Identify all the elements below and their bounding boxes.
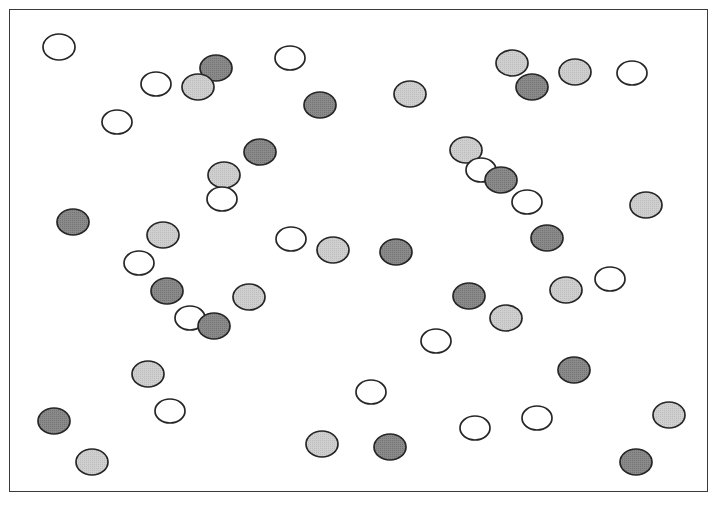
scatter-point-light-gray[interactable] bbox=[306, 431, 338, 457]
scatter-point-dark-gray[interactable] bbox=[151, 278, 183, 304]
scatter-point-white[interactable] bbox=[124, 251, 154, 275]
scatter-point-dark-gray[interactable] bbox=[620, 449, 652, 475]
scatter-point-light-gray[interactable] bbox=[147, 222, 179, 248]
scatter-point-light-gray[interactable] bbox=[76, 449, 108, 475]
plot-border bbox=[9, 9, 708, 492]
scatter-point-light-gray[interactable] bbox=[233, 284, 265, 310]
scatter-point-light-gray[interactable] bbox=[317, 237, 349, 263]
scatter-point-white[interactable] bbox=[141, 72, 171, 96]
scatter-point-dark-gray[interactable] bbox=[380, 239, 412, 265]
scatter-point-dark-gray[interactable] bbox=[57, 209, 89, 235]
scatter-point-light-gray[interactable] bbox=[630, 192, 662, 218]
scatter-point-white[interactable] bbox=[522, 406, 552, 430]
scatter-point-white[interactable] bbox=[512, 190, 542, 214]
scatter-point-dark-gray[interactable] bbox=[485, 167, 517, 193]
scatter-point-dark-gray[interactable] bbox=[374, 434, 406, 460]
scatter-point-light-gray[interactable] bbox=[496, 50, 528, 76]
scatter-point-white[interactable] bbox=[421, 329, 451, 353]
scatter-point-white[interactable] bbox=[356, 380, 386, 404]
scatter-point-light-gray[interactable] bbox=[208, 162, 240, 188]
scatter-point-white[interactable] bbox=[275, 46, 305, 70]
scatter-point-dark-gray[interactable] bbox=[244, 139, 276, 165]
scatter-point-dark-gray[interactable] bbox=[304, 92, 336, 118]
scatter-point-white[interactable] bbox=[595, 267, 625, 291]
scatter-point-dark-gray[interactable] bbox=[558, 357, 590, 383]
scatter-point-dark-gray[interactable] bbox=[453, 283, 485, 309]
scatter-point-white[interactable] bbox=[276, 227, 306, 251]
scatter-point-light-gray[interactable] bbox=[653, 402, 685, 428]
scatter-point-dark-gray[interactable] bbox=[198, 313, 230, 339]
scatter-point-white[interactable] bbox=[207, 187, 237, 211]
scatter-point-white[interactable] bbox=[155, 399, 185, 423]
scatter-point-white[interactable] bbox=[43, 34, 75, 60]
scatter-point-light-gray[interactable] bbox=[394, 81, 426, 107]
scatter-point-light-gray[interactable] bbox=[550, 277, 582, 303]
scatter-point-light-gray[interactable] bbox=[559, 59, 591, 85]
scatter-point-dark-gray[interactable] bbox=[531, 225, 563, 251]
scatter-point-light-gray[interactable] bbox=[490, 305, 522, 331]
scatter-point-dark-gray[interactable] bbox=[38, 408, 70, 434]
scatter-point-white[interactable] bbox=[460, 416, 490, 440]
scatter-point-dark-gray[interactable] bbox=[516, 74, 548, 100]
scatter-point-light-gray[interactable] bbox=[132, 361, 164, 387]
figure-canvas bbox=[0, 0, 717, 508]
scatter-point-white[interactable] bbox=[617, 61, 647, 85]
scatter-point-white[interactable] bbox=[102, 110, 132, 134]
scatter-point-light-gray[interactable] bbox=[182, 74, 214, 100]
